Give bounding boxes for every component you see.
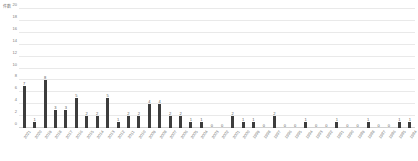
x-label-slot: 1992 — [321, 129, 331, 161]
bar: 2 — [231, 116, 234, 128]
x-label-slot: 2013 — [102, 129, 112, 161]
bar: 8 — [44, 80, 47, 128]
x-label-slot: 2017 — [61, 129, 71, 161]
y-axis-tick-label: 16 — [13, 27, 17, 31]
y-axis-tick-label: 6 — [15, 86, 17, 90]
x-label-slot: 2015 — [82, 129, 92, 161]
bar-slot: 0 — [373, 9, 383, 128]
bar-slot: 1 — [363, 9, 373, 128]
x-label-slot: 2010 — [134, 129, 144, 161]
x-label-slot: 1996 — [280, 129, 290, 161]
bar-slot: 3 — [61, 9, 71, 128]
bar-slot: 0 — [384, 9, 394, 128]
bar-slot: 0 — [207, 9, 217, 128]
bar: 1 — [252, 122, 255, 128]
bar-slot: 7 — [19, 9, 29, 128]
bar: 2 — [85, 116, 88, 128]
x-label-slot: 2018 — [50, 129, 60, 161]
x-label-slot: 1984 — [405, 129, 415, 161]
bar-slot: 0 — [311, 9, 321, 128]
bar-value-label: 7 — [23, 82, 25, 86]
bar-slot: 2 — [227, 9, 237, 128]
x-label-slot: 2001 — [227, 129, 237, 161]
x-label-slot: 1990 — [342, 129, 352, 161]
y-axis-tick-label: 14 — [13, 39, 17, 43]
bar-value-label: 1 — [117, 118, 119, 122]
x-label-slot: 2020 — [29, 129, 39, 161]
bar: 2 — [127, 116, 130, 128]
bar-slot: 1 — [394, 9, 404, 128]
bar-value-label: 2 — [169, 112, 171, 116]
bar-value-label: 1 — [200, 118, 202, 122]
x-label-slot: 1988 — [363, 129, 373, 161]
bar-value-label: 4 — [148, 100, 150, 104]
bar-slot: 2 — [134, 9, 144, 128]
bar-value-label: 5 — [75, 94, 77, 98]
bar-slot: 0 — [342, 9, 352, 128]
bar-series: 71833522512244221100211020010010010011 — [19, 9, 415, 128]
bar-value-label: 3 — [65, 106, 67, 110]
bar-value-label: 2 — [86, 112, 88, 116]
bar-slot: 1 — [332, 9, 342, 128]
x-axis-labels: 2021202020192018201720162015201420132012… — [19, 129, 415, 161]
y-axis-tick-label: 4 — [15, 98, 17, 102]
bar-slot: 0 — [321, 9, 331, 128]
bar-value-label: 2 — [179, 112, 181, 116]
bar-slot: 2 — [82, 9, 92, 128]
bar-slot: 3 — [50, 9, 60, 128]
bar: 2 — [273, 116, 276, 128]
x-label-slot: 2005 — [186, 129, 196, 161]
bar-slot: 2 — [165, 9, 175, 128]
x-label-slot: 1987 — [373, 129, 383, 161]
bar: 3 — [54, 110, 57, 128]
bar-value-label: 2 — [96, 112, 98, 116]
bar: 2 — [179, 116, 182, 128]
y-axis-tick-label: 0 — [15, 122, 17, 126]
bar: 4 — [148, 104, 151, 128]
bar: 2 — [137, 116, 140, 128]
x-label-slot: 1998 — [259, 129, 269, 161]
y-axis-tick-label: 8 — [15, 74, 17, 78]
bar-slot: 1 — [238, 9, 248, 128]
bar-value-label: 1 — [242, 118, 244, 122]
bar: 1 — [367, 122, 370, 128]
x-label-slot: 2004 — [196, 129, 206, 161]
bar-value-label: 4 — [159, 100, 161, 104]
bar-value-label: 0 — [377, 124, 379, 128]
bar: 5 — [75, 98, 78, 128]
x-label-slot: 2019 — [40, 129, 50, 161]
bar: 2 — [169, 116, 172, 128]
bar-slot: 5 — [71, 9, 81, 128]
bar-value-label: 1 — [398, 118, 400, 122]
bar-slot: 1 — [300, 9, 310, 128]
bar-slot: 1 — [248, 9, 258, 128]
bar: 2 — [96, 116, 99, 128]
y-axis-tick-label: 2 — [15, 110, 17, 114]
bar-value-label: 2 — [232, 112, 234, 116]
x-label-slot: 2003 — [207, 129, 217, 161]
bar-slot: 8 — [40, 9, 50, 128]
x-label-slot: 2007 — [165, 129, 175, 161]
y-axis-tick-label: 10 — [13, 63, 17, 67]
x-label-slot: 2011 — [123, 129, 133, 161]
bar-slot: 1 — [405, 9, 415, 128]
bar: 1 — [335, 122, 338, 128]
bar-value-label: 5 — [106, 94, 108, 98]
bar-value-label: 0 — [221, 124, 223, 128]
bar: 1 — [33, 122, 36, 128]
bar-value-label: 0 — [388, 124, 390, 128]
x-label-slot: 2012 — [113, 129, 123, 161]
bar-value-label: 0 — [263, 124, 265, 128]
x-label-slot: 2002 — [217, 129, 227, 161]
x-label-slot: 1991 — [332, 129, 342, 161]
bar-value-label: 1 — [409, 118, 411, 122]
bar-value-label: 1 — [304, 118, 306, 122]
y-axis-tick-label: 20 — [13, 3, 17, 7]
bar: 1 — [408, 122, 411, 128]
bar: 1 — [304, 122, 307, 128]
x-label-slot: 2016 — [71, 129, 81, 161]
bar-value-label: 1 — [34, 118, 36, 122]
bar-value-label: 1 — [336, 118, 338, 122]
x-label-slot: 1989 — [353, 129, 363, 161]
bar-slot: 1 — [186, 9, 196, 128]
